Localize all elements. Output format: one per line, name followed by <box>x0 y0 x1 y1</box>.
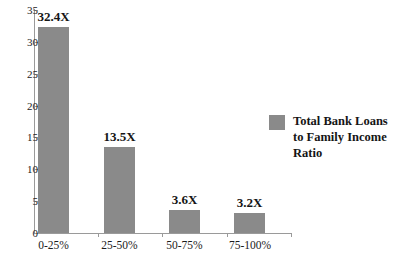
y-tick-25: 25 <box>0 69 38 70</box>
x-axis-line <box>34 233 292 234</box>
bar-value-label-0-25: 32.4X <box>28 10 79 23</box>
bar-value-label-50-75: 3.6X <box>159 193 210 206</box>
y-tick-label: 25 <box>12 69 38 80</box>
y-tick-30: 30 <box>0 37 38 38</box>
y-tick-20: 20 <box>0 101 38 102</box>
x-axis-label-75-100: 75-100% <box>220 239 280 251</box>
legend-label-line-1: Total Bank Loans <box>293 113 388 129</box>
y-tick-label: 15 <box>12 132 38 143</box>
y-tick-label: 30 <box>12 37 38 48</box>
x-tick-mark <box>291 233 292 237</box>
bar-0-25 <box>38 27 69 233</box>
plot-area: 0 5 10 15 20 25 30 35 <box>0 0 399 257</box>
legend-label-line-2: to Family Income <box>293 129 388 145</box>
x-tick-mark <box>227 233 228 237</box>
bar-value-label-75-100: 3.2X <box>224 196 275 209</box>
y-tick-label: 20 <box>12 101 38 112</box>
legend-label: Total Bank Loans to Family Income Ratio <box>293 113 388 161</box>
legend-swatch-icon <box>269 115 285 130</box>
bar-25-50 <box>104 147 135 233</box>
x-axis-label-25-50: 25-50% <box>92 239 147 251</box>
y-tick-15: 15 <box>0 132 38 133</box>
x-axis-label-0-25: 0-25% <box>28 239 79 251</box>
bar-75-100 <box>234 213 265 233</box>
y-tick-5: 5 <box>0 196 38 197</box>
legend: Total Bank Loans to Family Income Ratio <box>269 113 388 161</box>
bar-value-label-25-50: 13.5X <box>94 130 145 143</box>
y-tick-label: 0 <box>12 228 38 239</box>
y-tick-0: 0 <box>0 228 38 229</box>
x-tick-mark <box>98 233 99 237</box>
y-tick-label: 10 <box>12 164 38 175</box>
x-axis-label-50-75: 50-75% <box>157 239 212 251</box>
y-tick-label: 5 <box>12 196 38 207</box>
bar-chart: 0 5 10 15 20 25 30 35 <box>0 0 399 257</box>
y-tick-35: 35 <box>0 5 38 6</box>
x-tick-mark <box>162 233 163 237</box>
legend-label-line-3: Ratio <box>293 145 388 161</box>
bar-50-75 <box>169 210 200 233</box>
y-tick-10: 10 <box>0 164 38 165</box>
